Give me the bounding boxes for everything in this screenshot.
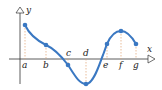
function-graph: y x a b c d e f g xyxy=(0,0,162,90)
label-e: e xyxy=(103,60,108,70)
function-curve xyxy=(25,25,136,84)
label-g: g xyxy=(133,60,139,70)
x-axis-arrow-icon xyxy=(148,55,155,63)
y-axis-arrow-icon xyxy=(16,7,24,13)
label-a: a xyxy=(22,60,27,70)
label-d: d xyxy=(83,48,89,58)
guide-lines xyxy=(25,25,136,84)
point-c xyxy=(66,63,71,68)
point-b xyxy=(44,43,49,48)
point-d xyxy=(84,82,89,87)
axes: y x xyxy=(9,5,155,84)
point-f xyxy=(119,29,124,34)
label-f: f xyxy=(118,60,124,70)
point-a xyxy=(23,23,28,28)
y-axis-label: y xyxy=(25,5,32,15)
point-g xyxy=(134,42,139,47)
points xyxy=(23,23,139,87)
point-e xyxy=(105,42,110,47)
x-axis-label: x xyxy=(147,44,152,54)
label-b: b xyxy=(43,60,49,70)
label-c: c xyxy=(66,48,71,58)
